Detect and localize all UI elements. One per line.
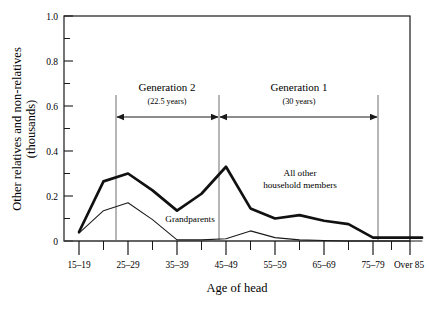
y-tick-label-2: 0.4 [46, 147, 58, 157]
generation-2-subtitle: (22.5 years) [147, 97, 186, 106]
series-label-all-other-line2: household members [263, 180, 337, 190]
y-tick-label-1: 0.2 [46, 192, 58, 202]
series-label-all-other-line1: All other [284, 168, 317, 178]
x-tick-label-6: 75–79 [361, 260, 385, 270]
chart-figure: 0 0.2 0.4 0.6 0.8 1.0 Other relatives an… [0, 0, 429, 310]
y-tick-label-3: 0.6 [46, 102, 58, 112]
x-axis-title: Age of head [206, 281, 268, 295]
x-axis-major-ticks [79, 241, 410, 255]
x-tick-label-7: Over 85 [394, 260, 425, 270]
x-tick-label-1: 25–29 [116, 260, 140, 270]
y-axis-title-line1: Other relatives and non-relatives [10, 47, 24, 211]
series-label-grandparents: Grandparents [165, 214, 215, 224]
x-tick-label-4: 55–59 [263, 260, 287, 270]
x-axis-minor-ticks [104, 241, 392, 250]
y-axis-title-line2: (thousands) [24, 100, 38, 158]
x-tick-label-0: 15–19 [67, 260, 91, 270]
y-tick-label-0: 0 [53, 237, 58, 247]
x-tick-label-2: 35–39 [165, 260, 189, 270]
generation-1-title: Generation 1 [270, 81, 327, 93]
x-tick-label-5: 65–69 [312, 260, 336, 270]
y-tick-label-5: 1.0 [46, 12, 58, 22]
y-tick-label-4: 0.8 [46, 57, 58, 67]
chart-svg: 0 0.2 0.4 0.6 0.8 1.0 Other relatives an… [0, 0, 429, 310]
generation-1-subtitle: (30 years) [283, 97, 316, 106]
x-tick-label-3: 45–49 [214, 260, 238, 270]
generation-2-title: Generation 2 [138, 81, 195, 93]
